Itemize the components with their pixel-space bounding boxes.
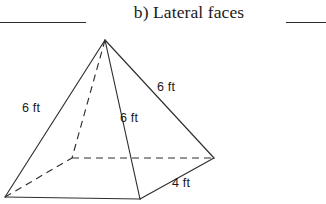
page-title: b) Lateral faces bbox=[99, 0, 279, 24]
dimension-label-left-slant: 6 ft bbox=[22, 101, 40, 115]
hidden-base-edge-left bbox=[5, 158, 72, 197]
hidden-lateral-edge-back bbox=[72, 40, 105, 158]
dimension-label-front-slant: 6 ft bbox=[120, 111, 138, 125]
dimension-label-base: 4 ft bbox=[172, 176, 190, 190]
base-edge-front-left bbox=[5, 197, 140, 199]
lateral-edge-left bbox=[5, 40, 105, 197]
lateral-edge-right bbox=[105, 40, 214, 158]
dimension-label-right-slant: 6 ft bbox=[157, 80, 175, 94]
header-rule-right bbox=[286, 22, 326, 23]
header: b) Lateral faces bbox=[0, 0, 326, 30]
page-root: b) Lateral faces 6 ft 6 ft 6 ft 4 ft bbox=[0, 0, 326, 204]
pyramid-svg: 6 ft 6 ft 6 ft 4 ft bbox=[0, 28, 326, 204]
header-rule-left bbox=[0, 22, 86, 23]
pyramid-figure: 6 ft 6 ft 6 ft 4 ft bbox=[0, 28, 326, 204]
